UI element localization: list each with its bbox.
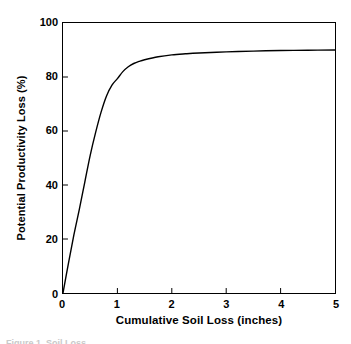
y-tick-label: 60 [30,125,58,136]
y-axis-tick-labels: 020406080100 [30,0,58,344]
x-tick-label: 3 [223,298,229,310]
x-tick-label: 0 [59,298,65,310]
x-tick-label: 4 [278,298,284,310]
y-tick-label: 40 [30,180,58,191]
figure-caption-clipped: Figure 1. Soil Loss [6,338,346,344]
x-axis-tick-labels: 012345 [0,298,351,312]
x-tick-label: 5 [333,298,339,310]
curve-svg [63,23,335,293]
x-tick-label: 2 [169,298,175,310]
x-tick-label: 1 [114,298,120,310]
axis-tick-marks [63,77,281,293]
y-axis-title: Potential Productivity Loss (%) [10,22,32,294]
y-tick-label: 80 [30,71,58,82]
y-tick-label: 100 [30,17,58,28]
x-axis-title: Cumulative Soil Loss (inches) [62,314,336,326]
plot-area [62,22,336,294]
data-series-line [63,50,335,293]
chart-figure: Potential Productivity Loss (%) 02040608… [0,0,351,344]
y-tick-label: 20 [30,234,58,245]
